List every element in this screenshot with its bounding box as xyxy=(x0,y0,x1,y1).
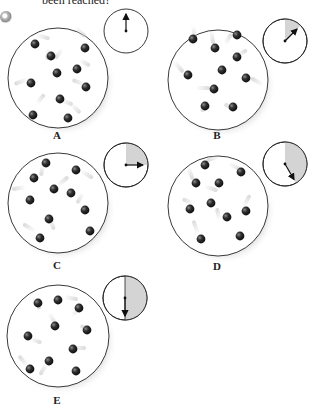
molecule xyxy=(47,52,56,61)
molecule xyxy=(81,44,90,53)
panel-label-d: D xyxy=(213,260,221,272)
panel-label-c: C xyxy=(53,259,61,271)
molecule xyxy=(73,65,82,74)
clock-gauge xyxy=(104,9,148,53)
panel-label-e: E xyxy=(53,394,60,406)
panel-e xyxy=(7,276,147,395)
gas-container xyxy=(168,156,268,256)
elapsed-sector xyxy=(125,276,147,320)
panel-b xyxy=(168,19,307,138)
molecule xyxy=(82,83,91,92)
panel-d xyxy=(168,142,307,264)
gas-container xyxy=(8,28,108,128)
panel-label-a: A xyxy=(53,129,61,141)
gas-container xyxy=(8,153,108,253)
clock-gauge xyxy=(104,143,148,187)
clock-gauge xyxy=(263,142,307,186)
panel-c xyxy=(8,143,148,261)
diagram-svg xyxy=(0,0,311,408)
molecule xyxy=(29,111,38,120)
diagram-stage: been reached? xyxy=(0,0,311,408)
clock-gauge xyxy=(103,276,147,320)
molecule xyxy=(56,95,65,104)
molecule xyxy=(27,79,36,88)
clock-gauge xyxy=(263,19,307,63)
molecule xyxy=(64,114,73,123)
panel-label-b: B xyxy=(213,129,220,141)
panel-a xyxy=(8,9,148,136)
molecule xyxy=(31,40,40,49)
molecule xyxy=(53,69,62,78)
